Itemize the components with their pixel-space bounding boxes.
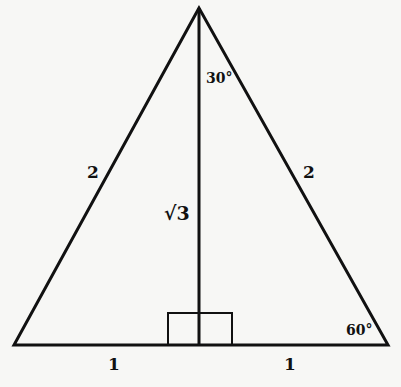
triangle-diagram: 30° 2 2 √3 60° 1 1 bbox=[0, 0, 401, 387]
base-angle-label: 60° bbox=[346, 323, 372, 337]
apex-angle-label: 30° bbox=[206, 71, 232, 85]
right-side-label: 2 bbox=[303, 164, 315, 181]
altitude-label: √3 bbox=[164, 204, 190, 223]
left-side-label: 2 bbox=[87, 164, 99, 181]
triangle-drawing bbox=[0, 0, 401, 387]
equilateral-triangle bbox=[14, 8, 388, 345]
base-left-label: 1 bbox=[108, 356, 120, 373]
base-right-label: 1 bbox=[284, 356, 296, 373]
